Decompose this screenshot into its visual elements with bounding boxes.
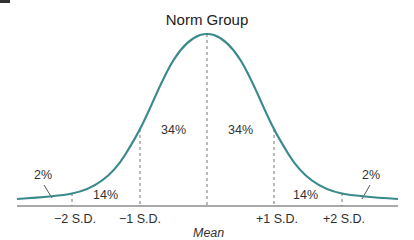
pct-right-34: 34% (228, 123, 253, 137)
mean-label: Mean (193, 226, 224, 240)
tick-plus-1sd: +1 S.D. (256, 212, 298, 226)
pct-right-tail: 2% (362, 168, 380, 182)
tick-plus-2sd: +2 S.D. (323, 212, 365, 226)
bell-curve-plot (0, 0, 414, 240)
pct-left-14: 14% (93, 188, 118, 202)
tick-minus-1sd: −1 S.D. (119, 212, 161, 226)
pct-left-tail: 2% (34, 168, 52, 182)
tick-minus-2sd: −2 S.D. (54, 212, 96, 226)
pct-left-34: 34% (161, 123, 186, 137)
pct-right-14: 14% (293, 188, 318, 202)
